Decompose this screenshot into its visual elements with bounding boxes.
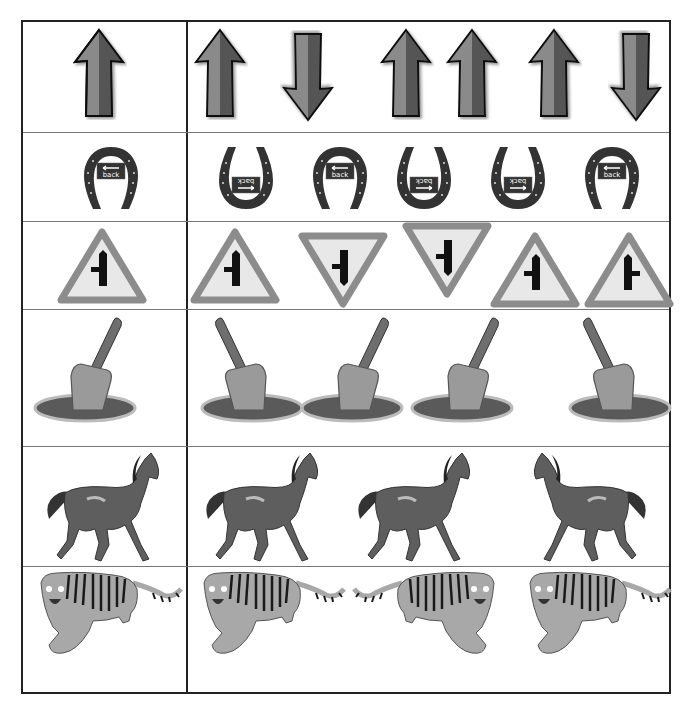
- tiger-icon[interactable]: [522, 569, 672, 659]
- arrow-up-icon[interactable]: [378, 28, 434, 120]
- row-road-signs: [23, 221, 669, 310]
- reference-cell: back: [23, 133, 186, 222]
- options-cell: [188, 22, 669, 132]
- shovel-icon[interactable]: [194, 312, 304, 424]
- reference-cell: [23, 222, 186, 310]
- row-horseshoes: back back back: [23, 132, 669, 222]
- reference-cell: [23, 22, 186, 132]
- shovel-icon[interactable]: [410, 312, 520, 424]
- svg-text:back: back: [415, 177, 433, 185]
- tiger-icon[interactable]: [33, 569, 183, 659]
- horse-icon[interactable]: [348, 449, 488, 565]
- horse-icon[interactable]: [37, 449, 177, 565]
- side-road-sign-icon[interactable]: [298, 230, 388, 308]
- arrow-up-icon[interactable]: [192, 28, 248, 120]
- tiger-icon[interactable]: [196, 569, 346, 659]
- row-shovels: [23, 309, 669, 447]
- options-cell: back back back: [188, 133, 669, 222]
- shovel-icon[interactable]: [562, 312, 672, 424]
- side-road-sign-icon[interactable]: [584, 232, 674, 310]
- side-road-sign-icon[interactable]: [190, 228, 280, 306]
- svg-text:back: back: [237, 177, 255, 185]
- horse-icon[interactable]: [516, 449, 656, 565]
- shovel-icon[interactable]: [300, 312, 410, 424]
- tiger-icon[interactable]: [352, 569, 502, 659]
- horseshoe-icon[interactable]: back: [308, 143, 372, 213]
- reference-cell: [23, 310, 186, 447]
- svg-text:back: back: [103, 171, 121, 179]
- horse-icon[interactable]: [196, 449, 336, 565]
- arrow-up-icon[interactable]: [444, 28, 500, 120]
- reference-cell: [23, 567, 186, 695]
- options-cell: [188, 310, 669, 447]
- horseshoe-icon[interactable]: back: [392, 143, 456, 213]
- shovel-icon[interactable]: [33, 312, 143, 424]
- arrow-down-icon[interactable]: [608, 30, 664, 122]
- horseshoe-icon[interactable]: back: [580, 143, 644, 213]
- arrow-up-icon[interactable]: [71, 28, 127, 120]
- svg-text:back: back: [332, 171, 350, 179]
- horseshoe-icon[interactable]: back: [214, 143, 278, 213]
- horseshoe-icon[interactable]: back: [486, 143, 550, 213]
- matching-worksheet: back back back: [21, 20, 671, 694]
- arrow-down-icon[interactable]: [280, 30, 336, 122]
- svg-text:back: back: [604, 171, 622, 179]
- row-horses: [23, 446, 669, 567]
- side-road-sign-icon[interactable]: [57, 228, 147, 306]
- side-road-sign-icon[interactable]: [402, 220, 492, 298]
- horseshoe-icon[interactable]: back: [79, 143, 143, 213]
- options-cell: [188, 222, 669, 310]
- options-cell: [188, 447, 669, 567]
- side-road-sign-icon[interactable]: [490, 232, 580, 310]
- options-cell: [188, 567, 669, 695]
- row-arrows: [23, 22, 669, 132]
- svg-text:back: back: [509, 177, 527, 185]
- arrow-up-icon[interactable]: [526, 28, 582, 120]
- row-tigers: [23, 566, 669, 695]
- reference-cell: [23, 447, 186, 567]
